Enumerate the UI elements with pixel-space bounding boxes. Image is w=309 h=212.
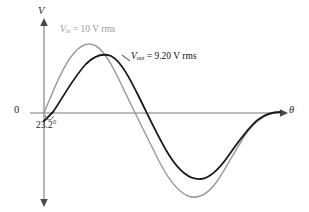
vout-leader-line	[122, 55, 130, 61]
vout-value: = 9.20 V rms	[147, 51, 197, 61]
curve-vout	[44, 55, 280, 179]
phase-angle-label: 23.2°	[36, 121, 56, 131]
vin-subscript: in	[66, 28, 71, 34]
x-axis-arrowhead	[280, 109, 288, 117]
y-axis-label: V	[38, 6, 44, 17]
y-axis-arrowhead-top	[40, 18, 48, 26]
figure-canvas: V θ 0 23.2° Vin = 10 V rms Vout = 9.20 V…	[0, 0, 309, 212]
vout-subscript: out	[137, 55, 145, 61]
x-axis-label: θ	[289, 105, 294, 116]
vout-series-label: Vout = 9.20 V rms	[131, 52, 197, 62]
origin-label: 0	[14, 105, 19, 116]
y-axis-arrowhead-bottom	[40, 199, 48, 207]
sine-wave-plot	[0, 0, 309, 212]
curve-vin	[44, 44, 278, 197]
vin-series-label: Vin = 10 V rms	[60, 25, 116, 35]
vin-value: = 10 V rms	[73, 24, 116, 34]
